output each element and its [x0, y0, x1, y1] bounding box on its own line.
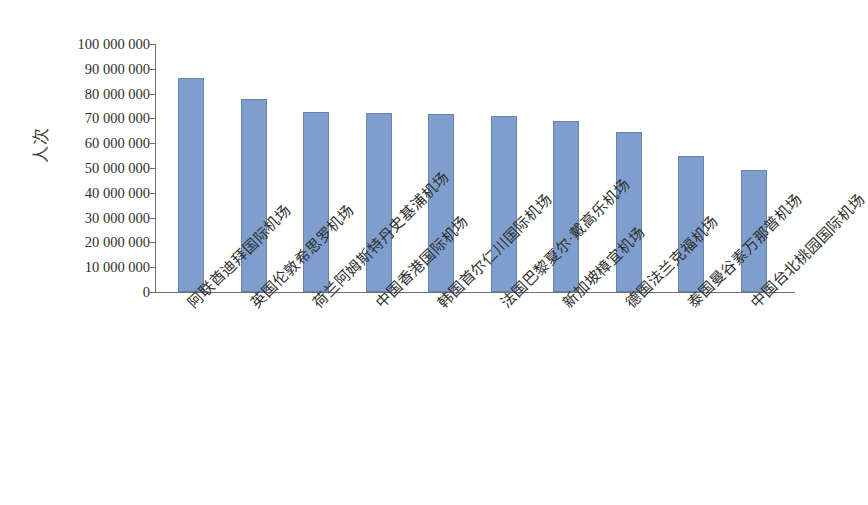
bar — [178, 78, 204, 292]
y-axis-tick — [148, 44, 156, 45]
y-axis-tick-label: 20 000 000 — [44, 232, 150, 252]
y-axis-tick-label: 80 000 000 — [44, 84, 150, 104]
y-axis-tick-label: 100 000 000 — [44, 34, 150, 54]
bar — [366, 113, 392, 292]
y-axis-tick-labels: 100 000 00090 000 00080 000 00070 000 00… — [44, 34, 150, 302]
y-axis-tick-label: 90 000 000 — [44, 59, 150, 79]
y-axis-tick-label: 70 000 000 — [44, 108, 150, 128]
y-axis-tick-label: 40 000 000 — [44, 183, 150, 203]
x-axis-category-labels: 阿联酋迪拜国际机场英国伦敦希思罗机场荷兰阿姆斯特丹史基浦机场中国香港国际机场韩国… — [0, 292, 818, 492]
bar — [553, 121, 579, 292]
y-axis-tick-label: 60 000 000 — [44, 133, 150, 153]
bar — [491, 116, 517, 292]
y-axis-tick-label: 30 000 000 — [44, 208, 150, 228]
y-axis-tick-label: 50 000 000 — [44, 158, 150, 178]
bar — [428, 114, 454, 292]
bar — [616, 132, 642, 292]
y-axis-tick-label: 10 000 000 — [44, 257, 150, 277]
